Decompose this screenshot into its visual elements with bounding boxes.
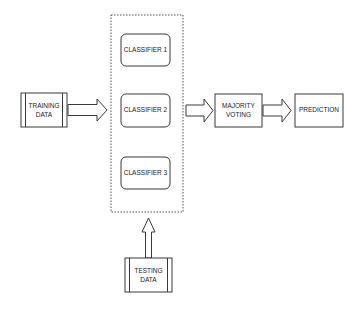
arrow-training-to-classifiers xyxy=(68,99,107,121)
majority-voting-label-line2: VOTING xyxy=(226,111,251,118)
arrow-classifiers-to-voting xyxy=(186,99,213,122)
classifier-1-label: CLASSIFIER 1 xyxy=(124,46,168,53)
classifier-1-node: CLASSIFIER 1 xyxy=(121,34,170,66)
testing-data-label-line2: DATA xyxy=(140,276,157,283)
training-data-label-line2: DATA xyxy=(36,111,53,118)
prediction-node: PREDICTION xyxy=(295,94,343,127)
classifier-2-label: CLASSIFIER 2 xyxy=(124,106,168,113)
arrow-testing-to-classifiers xyxy=(142,218,155,258)
testing-data-label-line1: TESTING xyxy=(134,267,162,274)
training-data-label-line1: TRAINING xyxy=(28,102,59,109)
ensemble-diagram: TRAINING DATA CLASSIFIER 1 CLASSIFIER 2 … xyxy=(0,0,360,310)
training-data-node: TRAINING DATA xyxy=(21,93,67,127)
prediction-label: PREDICTION xyxy=(299,106,339,113)
arrow-voting-to-prediction xyxy=(263,99,291,122)
testing-data-node: TESTING DATA xyxy=(125,258,172,292)
classifier-3-node: CLASSIFIER 3 xyxy=(121,157,170,189)
majority-voting-label-line1: MAJORITY xyxy=(222,102,256,109)
classifier-2-node: CLASSIFIER 2 xyxy=(121,94,170,127)
majority-voting-node: MAJORITY VOTING xyxy=(215,94,262,127)
classifier-3-label: CLASSIFIER 3 xyxy=(124,169,168,176)
